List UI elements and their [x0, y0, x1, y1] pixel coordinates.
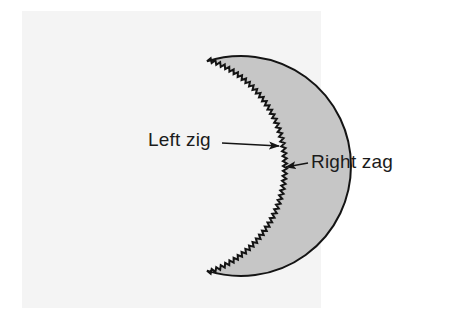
annotation-label-left-zig: Left zig [148, 130, 211, 149]
figure-root: Left zig Right zag [0, 0, 451, 330]
annotation-label-right-zag: Right zag [311, 152, 393, 171]
leader-line [222, 143, 279, 146]
leader-line-left-zig [222, 143, 279, 146]
